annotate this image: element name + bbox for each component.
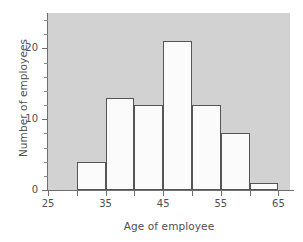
- x-tick-major: [48, 191, 49, 196]
- histogram-bar: [250, 183, 279, 190]
- x-tick-major: [163, 191, 164, 196]
- histogram-bar: [221, 133, 250, 190]
- y-tick-minor: [44, 20, 48, 21]
- y-axis-line: [47, 13, 48, 191]
- y-tick-label: 0: [16, 184, 38, 195]
- x-tick-minor: [134, 191, 135, 196]
- y-tick-major: [42, 119, 48, 120]
- y-tick-minor: [44, 162, 48, 163]
- y-tick-minor: [44, 148, 48, 149]
- y-tick-minor: [44, 77, 48, 78]
- histogram-figure: 01020 2535455565 Number of employees Age…: [0, 0, 303, 242]
- x-axis-title: Age of employee: [48, 220, 290, 232]
- histogram-bar: [106, 98, 135, 190]
- x-tick-minor: [192, 191, 193, 196]
- y-tick-minor: [44, 34, 48, 35]
- histogram-bar: [77, 162, 106, 190]
- x-tick-major: [278, 191, 279, 196]
- x-tick-label: 25: [33, 198, 63, 209]
- y-tick-minor: [44, 63, 48, 64]
- x-tick-label: 55: [206, 198, 236, 209]
- x-tick-label: 35: [91, 198, 121, 209]
- y-tick-minor: [44, 91, 48, 92]
- y-tick-minor: [44, 133, 48, 134]
- x-tick-minor: [250, 191, 251, 196]
- y-tick-minor: [44, 176, 48, 177]
- x-tick-label: 45: [148, 198, 178, 209]
- x-axis-line: [48, 190, 294, 191]
- histogram-bar: [134, 105, 163, 190]
- y-axis-title: Number of employees: [17, 13, 29, 183]
- x-tick-major: [106, 191, 107, 196]
- histogram-bar: [192, 105, 221, 190]
- x-tick-label: 65: [263, 198, 293, 209]
- x-tick-major: [221, 191, 222, 196]
- y-tick-minor: [44, 105, 48, 106]
- x-tick-minor: [77, 191, 78, 196]
- y-tick-major: [42, 48, 48, 49]
- histogram-bar: [163, 41, 192, 190]
